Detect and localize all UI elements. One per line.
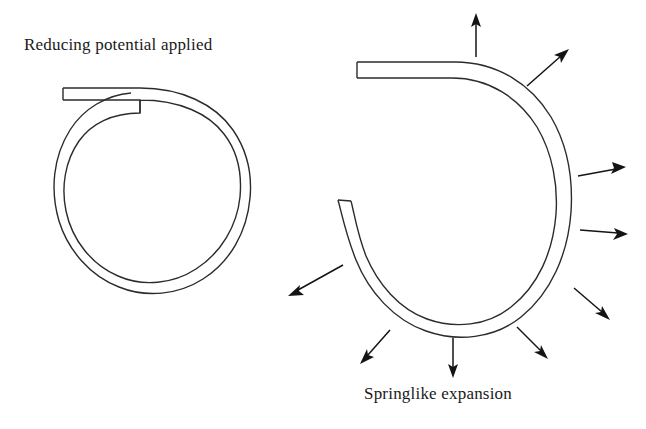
spiral-expanded-open-end-cap [338, 200, 351, 201]
expansion-arrows [288, 13, 628, 378]
diagram-canvas: Reducing potential applied Springlike ex… [0, 0, 646, 429]
arrow-up-right [527, 49, 569, 86]
arrow-up [471, 13, 481, 57]
arrow-right-lower [580, 228, 628, 240]
coiled-spiral-closed [54, 88, 250, 294]
label-reducing-potential-applied: Reducing potential applied [24, 36, 212, 55]
arrow-right-upper [578, 162, 626, 176]
arrow-down-left [360, 330, 390, 364]
spiral-closed-outer-edge [54, 88, 250, 294]
arrow-left-down [288, 265, 343, 296]
arrow-down-right-far [574, 288, 610, 320]
coiled-spiral-expanded [338, 62, 571, 337]
label-springlike-expansion: Springlike expansion [364, 385, 512, 404]
spiral-closed-inner-edge [63, 100, 240, 283]
spiral-expanded-inner-edge [351, 78, 556, 325]
spiral-expanded-outer-edge [338, 62, 571, 337]
arrow-down [448, 338, 458, 378]
diagram-illustration [0, 0, 646, 429]
arrow-down-right [517, 327, 548, 359]
